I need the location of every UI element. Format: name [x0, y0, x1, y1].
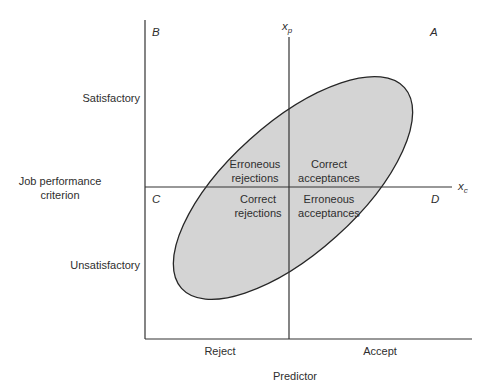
- y-label-satisfactory: Satisfactory: [60, 92, 140, 104]
- region-correct-acceptances: Correct acceptances: [291, 157, 367, 185]
- region-label-line: rejections: [222, 171, 288, 185]
- quadrant-letter-d: D: [431, 193, 439, 205]
- predictor-cutoff-label: xp: [282, 20, 292, 35]
- criterion-cutoff-label: xc: [458, 180, 468, 195]
- x-axis-title: Predictor: [255, 369, 335, 383]
- region-erroneous-rejections: Erroneous rejections: [222, 157, 288, 185]
- y-axis-title: Job performance criterion: [6, 174, 114, 202]
- y-axis-title-line2: criterion: [6, 188, 114, 202]
- region-label-line: acceptances: [291, 171, 367, 185]
- scatter-ellipse: [138, 39, 448, 336]
- y-axis-title-line1: Job performance: [6, 174, 114, 188]
- quadrant-letter-c: C: [152, 193, 160, 205]
- region-label-line: acceptances: [291, 206, 367, 220]
- y-label-unsatisfactory: Unsatisfactory: [52, 259, 140, 271]
- region-label-line: rejections: [229, 206, 287, 220]
- region-label-line: Erroneous: [291, 192, 367, 206]
- quadrant-letter-b: B: [152, 26, 160, 38]
- region-correct-rejections: Correct rejections: [229, 192, 287, 220]
- quadrant-letter-a: A: [430, 26, 438, 38]
- x-label-reject: Reject: [190, 344, 250, 358]
- x-label-accept: Accept: [345, 344, 415, 358]
- region-label-line: Correct: [291, 157, 367, 171]
- region-label-line: Correct: [229, 192, 287, 206]
- region-label-line: Erroneous: [222, 157, 288, 171]
- region-erroneous-acceptances: Erroneous acceptances: [291, 192, 367, 220]
